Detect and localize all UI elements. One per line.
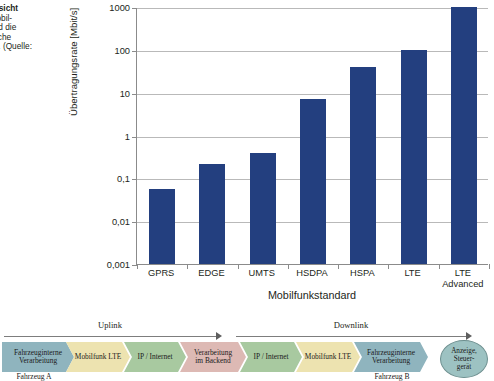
bar	[401, 50, 427, 264]
flow-node-label-line: IP / Internet	[137, 353, 172, 361]
y-axis-tick-label: 0,001	[107, 260, 130, 270]
x-axis-tick-label: GPRS	[148, 268, 174, 279]
flow-node-label: FahrzeuginterneVerarbeitung	[362, 349, 420, 366]
x-axis-tick-label-line: EDGE	[198, 268, 224, 279]
bar	[300, 99, 326, 264]
gridline	[137, 51, 488, 52]
y-axis-tick	[132, 94, 137, 95]
flow-node[interactable]: Verarbeitungim Backend	[180, 342, 246, 372]
y-axis-tick-label: 0,1	[117, 174, 130, 184]
y-axis-tick	[132, 8, 137, 9]
flow-node-label: IP / Internet	[248, 353, 293, 361]
flow-node-label-line: Verarbeitung	[14, 357, 62, 365]
flow-node[interactable]: FahrzeuginterneVerarbeitung	[2, 342, 74, 372]
x-axis-tick-label-line: HSDPA	[296, 268, 327, 279]
y-axis-tick	[132, 222, 137, 223]
flow-node[interactable]: Mobilfunk LTE	[296, 342, 360, 372]
flow-node-label-line: Verarbeitung	[367, 357, 415, 365]
flow-node-label-line: Mobilfunk LTE	[75, 353, 121, 361]
y-axis-tick	[132, 137, 137, 138]
flow-arrow-label: Downlink	[334, 320, 368, 330]
flow-node-label-line: Mobilfunk LTE	[305, 353, 351, 361]
y-axis-tick	[132, 51, 137, 52]
x-axis-tick-label: EDGE	[198, 268, 224, 279]
gridline	[137, 94, 488, 95]
x-axis-tick-label: HSPA	[350, 268, 375, 279]
bar	[451, 7, 477, 264]
x-axis-tick-label: UMTS	[249, 268, 275, 279]
x-axis-tick-label: HSDPA	[296, 268, 327, 279]
x-axis-tick-label-line: Advanced	[442, 279, 483, 290]
flow-node[interactable]: IP / Internet	[240, 342, 302, 372]
flow-node[interactable]: IP / Internet	[124, 342, 186, 372]
flow-node-label-line: IP / Internet	[253, 353, 288, 361]
bar	[250, 153, 276, 264]
x-axis-tick-label: LTE	[404, 268, 420, 279]
x-axis-tick-label-line: LTE	[404, 268, 420, 279]
flow-arrow-line	[4, 336, 216, 337]
y-axis-tick-label: 100	[114, 46, 130, 56]
flow-node-label: Verarbeitungim Backend	[189, 349, 237, 366]
terminal-node[interactable]: Anzeige,Steuer-gerät	[440, 340, 488, 378]
terminal-node-label-line: Anzeige,	[451, 347, 477, 355]
y-axis-tick-label: 10	[120, 89, 130, 99]
x-axis-tick-label-line: LTE	[442, 268, 483, 279]
x-axis-tick-label-line: HSPA	[350, 268, 375, 279]
gridline	[137, 8, 488, 9]
y-axis-title-text: Übertragungsrate [Mbit/s]	[68, 0, 79, 116]
x-axis-tick-label-line: UMTS	[249, 268, 275, 279]
x-axis-title: Mobilfunkstandard	[136, 289, 488, 301]
flow-arrow-line	[236, 336, 466, 337]
flow-node-label: FahrzeuginterneVerarbeitung	[9, 349, 67, 366]
flow-arrow-head-icon	[466, 332, 472, 340]
bar	[149, 189, 175, 264]
x-axis-tick-label-line: GPRS	[148, 268, 174, 279]
flow-arrow-head-icon	[216, 332, 222, 340]
dataflow-diagram: UplinkDownlinkFahrzeuginterneVerarbeitun…	[0, 320, 494, 378]
flow-node[interactable]: FahrzeuginterneVerarbeitung	[354, 342, 428, 372]
terminal-node-label: Anzeige,Steuer-gerät	[451, 347, 477, 372]
x-axis-tick	[489, 264, 490, 269]
flow-node-label: Mobilfunk LTE	[70, 353, 126, 361]
bar-chart: Übertragungsrate [Mbit/s] 10001001010,10…	[0, 0, 494, 318]
terminal-node-label-line: gerät	[451, 363, 477, 371]
terminal-node-label-line: Steuer-	[451, 355, 477, 363]
plot-area	[136, 8, 488, 265]
x-axis-tick-label: LTEAdvanced	[442, 268, 483, 289]
flow-node[interactable]: Mobilfunk LTE	[66, 342, 130, 372]
vehicle-label: Fahrzeug B	[374, 372, 409, 381]
vehicle-label: Fahrzeug A	[16, 372, 51, 381]
y-axis-tick-labels: 10001001010,10,010,001	[84, 8, 130, 265]
bar	[350, 67, 376, 264]
y-axis-tick-label: 1	[125, 132, 130, 142]
y-axis-tick-label: 1000	[109, 3, 130, 13]
flow-node-label: Mobilfunk LTE	[300, 353, 356, 361]
bar	[199, 164, 225, 264]
y-axis-tick-label: 0,01	[112, 217, 130, 227]
flow-node-label-line: im Backend	[194, 357, 232, 365]
y-axis-tick	[132, 179, 137, 180]
flow-node-label: IP / Internet	[132, 353, 177, 361]
flow-arrow-label: Uplink	[98, 320, 122, 330]
